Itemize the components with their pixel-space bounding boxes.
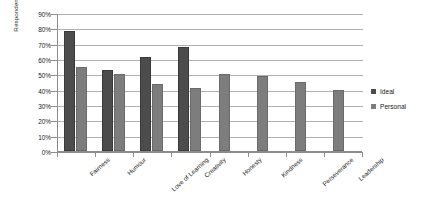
bar-personal xyxy=(333,90,344,151)
x-axis-category-label: Kindness xyxy=(279,156,303,179)
y-axis-tick-label: 50% xyxy=(11,72,51,79)
y-axis-tick-label: 30% xyxy=(11,103,51,110)
chart-legend: IdealPersonal xyxy=(371,88,406,118)
bar-group xyxy=(58,14,96,151)
y-axis-tick-labels: 0%10%20%30%40%50%60%70%80%90% xyxy=(5,14,51,152)
y-axis-tick-label: 80% xyxy=(11,26,51,33)
bar-ideal xyxy=(64,31,75,151)
bar-chart: Respondents (%) 0%10%20%30%40%50%60%70%8… xyxy=(0,0,432,205)
x-axis-category-labels: FairnessHumourLove of LearningCreativity… xyxy=(57,156,377,204)
y-axis-tick-label: 90% xyxy=(11,11,51,18)
bar-personal xyxy=(114,74,125,151)
bar-group xyxy=(325,14,363,151)
bar-ideal xyxy=(102,70,113,151)
bar-group xyxy=(172,14,210,151)
bar-group xyxy=(134,14,172,151)
bars-layer xyxy=(58,14,362,151)
legend-label: Personal xyxy=(380,103,406,110)
bar-group xyxy=(211,14,249,151)
bar-ideal xyxy=(178,47,189,151)
legend-item: Personal xyxy=(371,103,406,110)
x-axis-category-label: Fairness xyxy=(88,156,111,177)
bar-personal xyxy=(190,88,201,151)
bar-personal xyxy=(152,84,163,151)
y-axis-tick-label: 70% xyxy=(11,41,51,48)
x-axis-category-label: Leadership xyxy=(357,156,385,182)
y-axis-tick-label: 0% xyxy=(11,149,51,156)
legend-item: Ideal xyxy=(371,88,406,95)
bar-personal xyxy=(219,74,230,151)
bar-group xyxy=(287,14,325,151)
y-axis-tick-label: 20% xyxy=(11,118,51,125)
x-axis-category-label: Perseverance xyxy=(321,156,355,187)
bar-ideal xyxy=(140,57,151,151)
bar-personal xyxy=(295,82,306,151)
y-axis-tick-label: 60% xyxy=(11,57,51,64)
bar-group xyxy=(249,14,287,151)
legend-label: Ideal xyxy=(380,88,394,95)
y-axis-tick-label: 40% xyxy=(11,87,51,94)
bar-group xyxy=(96,14,134,151)
x-axis-category-label: Honesty xyxy=(240,156,262,177)
plot-area xyxy=(57,14,362,152)
legend-swatch-icon xyxy=(371,104,376,109)
y-axis-tick-label: 10% xyxy=(11,133,51,140)
bar-personal xyxy=(257,76,268,151)
x-axis-category-label: Humour xyxy=(126,156,147,176)
legend-swatch-icon xyxy=(371,89,376,94)
bar-personal xyxy=(76,67,87,151)
